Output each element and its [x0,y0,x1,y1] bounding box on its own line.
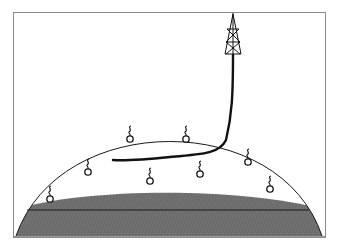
reservoir-diagram [0,0,339,250]
